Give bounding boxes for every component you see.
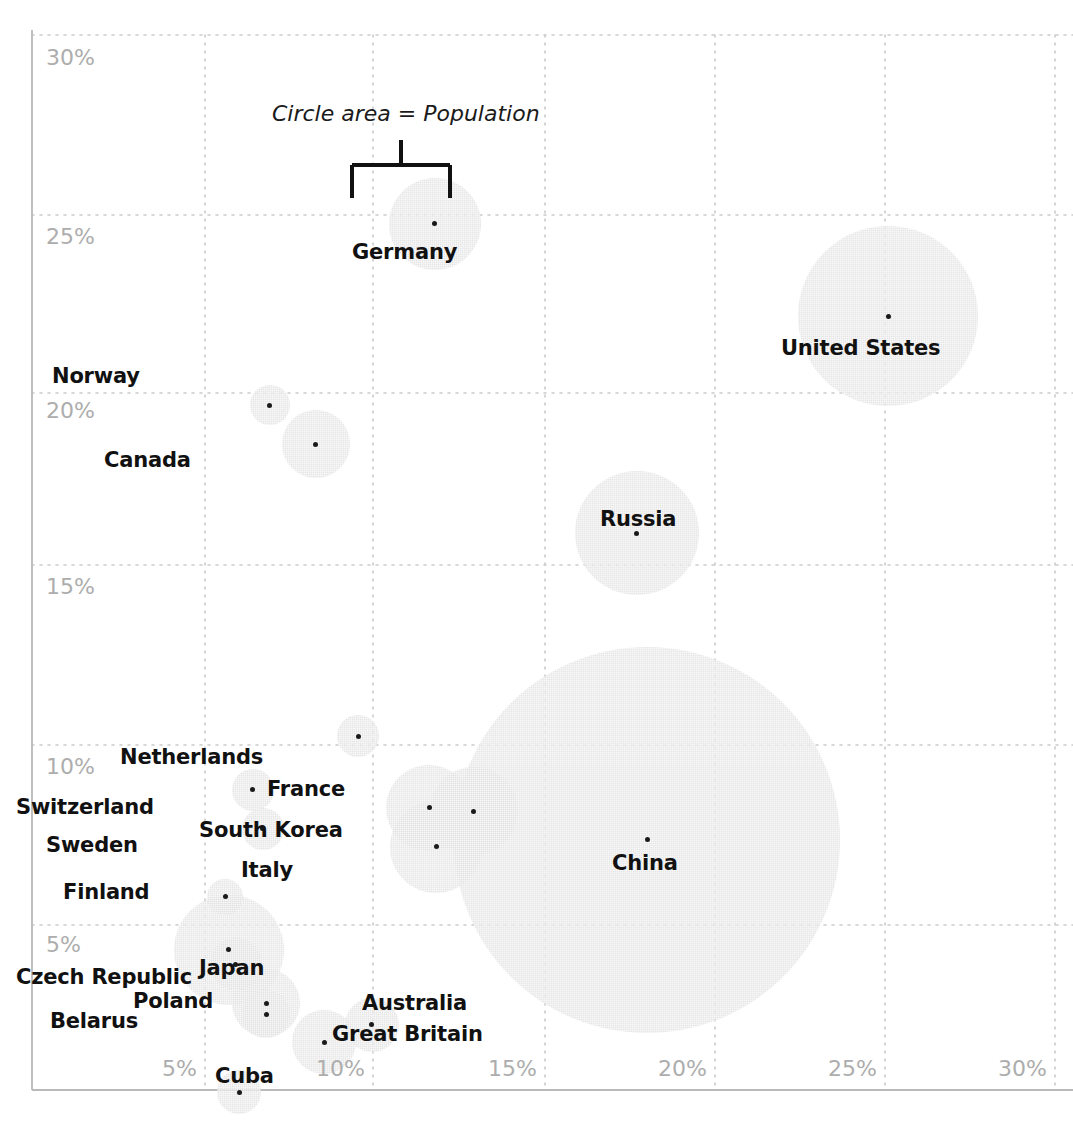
- center-dot: [264, 1012, 269, 1017]
- point-label: France: [267, 777, 345, 801]
- x-tick-label: 30%: [998, 1056, 1047, 1081]
- center-dot: [434, 844, 439, 849]
- point-label: Norway: [52, 364, 140, 388]
- size-encoding-annotation: Circle area = Population: [272, 101, 540, 126]
- plot-area: GermanyUnited StatesNorwayCanadaRussiaCh…: [0, 0, 1073, 1124]
- center-dot: [645, 837, 650, 842]
- center-dot: [471, 809, 476, 814]
- bubble-chart: GermanyUnited StatesNorwayCanadaRussiaCh…: [0, 0, 1073, 1124]
- point-label: United States: [781, 336, 940, 360]
- center-dot: [267, 403, 272, 408]
- point-label: Germany: [352, 240, 457, 264]
- y-tick-label: 20%: [46, 398, 95, 423]
- point-label: Cuba: [215, 1064, 274, 1088]
- point-label: Russia: [600, 507, 676, 531]
- center-dot: [886, 314, 891, 319]
- y-tick-label: 25%: [46, 224, 95, 249]
- point-label: Poland: [133, 989, 213, 1013]
- y-tick-label: 15%: [46, 574, 95, 599]
- point-label: South Korea: [199, 818, 343, 842]
- x-tick-label: 20%: [658, 1056, 707, 1081]
- center-dot: [264, 1001, 269, 1006]
- center-dot: [322, 1040, 327, 1045]
- x-tick-label: 15%: [488, 1056, 537, 1081]
- point-label: Finland: [63, 880, 149, 904]
- point-label: Australia: [362, 991, 467, 1015]
- point-label: Sweden: [46, 833, 138, 857]
- point-label: Czech Republic: [16, 965, 192, 989]
- point-label: Canada: [104, 448, 191, 472]
- point-label: Switzerland: [16, 795, 154, 819]
- x-tick-label: 5%: [162, 1056, 197, 1081]
- point-label: China: [612, 851, 678, 875]
- center-dot: [356, 734, 361, 739]
- y-tick-label: 10%: [46, 754, 95, 779]
- x-tick-label: 10%: [316, 1056, 365, 1081]
- point-label: Belarus: [50, 1009, 138, 1033]
- center-dot: [313, 442, 318, 447]
- point-label: Great Britain: [332, 1022, 483, 1046]
- y-tick-label: 5%: [46, 932, 81, 957]
- point-label: Japan: [199, 956, 264, 980]
- x-tick-label: 25%: [828, 1056, 877, 1081]
- center-dot: [427, 805, 432, 810]
- center-dot: [223, 894, 228, 899]
- point-label: Italy: [241, 858, 293, 882]
- y-tick-label: 30%: [46, 45, 95, 70]
- point-label: Netherlands: [120, 745, 263, 769]
- center-dot: [237, 1090, 242, 1095]
